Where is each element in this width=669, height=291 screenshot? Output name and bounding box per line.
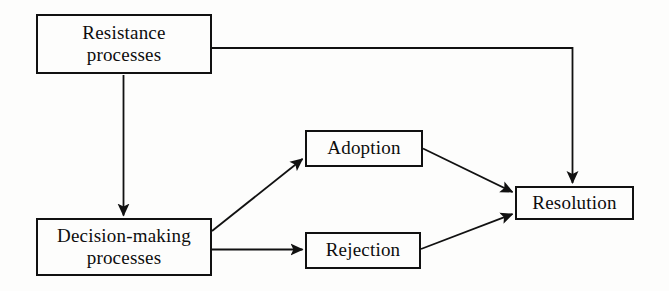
edge-decision-to-adoption bbox=[212, 159, 303, 231]
flow-diagram: Resistance processes Decision-making pro… bbox=[0, 0, 669, 291]
node-resolution-label: Resolution bbox=[528, 192, 620, 214]
node-adoption[interactable]: Adoption bbox=[305, 130, 423, 167]
node-resistance-processes[interactable]: Resistance processes bbox=[36, 14, 212, 74]
node-adoption-label: Adoption bbox=[323, 137, 404, 159]
node-rejection[interactable]: Rejection bbox=[305, 232, 421, 269]
edge-rejection-to-resolution bbox=[421, 214, 513, 249]
node-resolution[interactable]: Resolution bbox=[515, 186, 634, 220]
edge-adoption-to-resolution bbox=[423, 149, 513, 193]
node-decision-making-processes[interactable]: Decision-making processes bbox=[36, 218, 212, 276]
node-rejection-label: Rejection bbox=[322, 239, 405, 261]
node-resistance-processes-label: Resistance processes bbox=[78, 22, 169, 67]
node-decision-making-processes-label: Decision-making processes bbox=[53, 225, 195, 270]
